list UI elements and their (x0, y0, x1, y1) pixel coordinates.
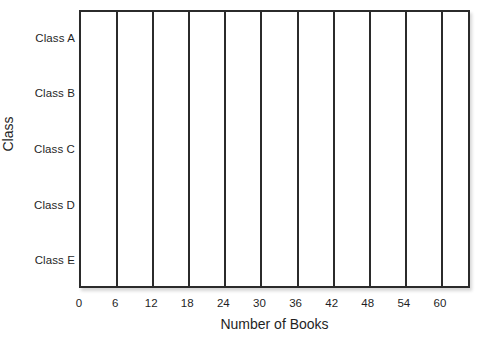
plot-area (79, 10, 470, 288)
y-tick-label-class-a: Class A (3, 32, 75, 44)
y-axis-tick-labels: Class AClass BClass CClass DClass E (0, 10, 75, 288)
x-tick-label-30: 30 (239, 296, 279, 310)
x-tick-label-42: 42 (312, 296, 352, 310)
x-tick-label-60: 60 (420, 296, 460, 310)
x-tick-label-18: 18 (167, 296, 207, 310)
x-axis-tick-labels: 06121824303642485460 (79, 296, 470, 312)
x-tick-label-6: 6 (95, 296, 135, 310)
x-tick-label-36: 36 (276, 296, 316, 310)
x-tick-label-54: 54 (384, 296, 424, 310)
y-tick-label-class-c: Class C (3, 143, 75, 155)
y-tick-label-class-e: Class E (3, 254, 75, 266)
x-tick-label-12: 12 (131, 296, 171, 310)
x-tick-label-48: 48 (348, 296, 388, 310)
x-tick-label-0: 0 (59, 296, 99, 310)
y-tick-label-class-b: Class B (3, 87, 75, 99)
bar-chart: Class Class AClass BClass CClass DClass … (0, 0, 483, 339)
x-tick-label-24: 24 (203, 296, 243, 310)
x-axis-title: Number of Books (79, 316, 470, 333)
bars-layer (81, 12, 468, 286)
y-tick-label-class-d: Class D (3, 199, 75, 211)
